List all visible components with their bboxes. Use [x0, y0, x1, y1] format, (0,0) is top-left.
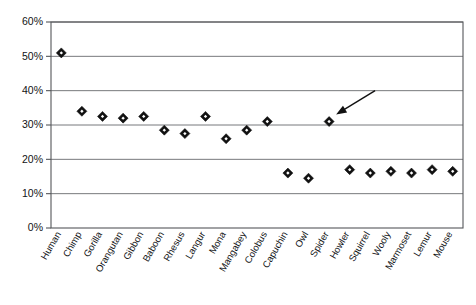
y-axis-label-20: 20%	[22, 153, 43, 165]
y-axis-label-60: 60%	[22, 15, 43, 27]
y-axis-label-0: 0%	[28, 221, 43, 233]
y-axis-label-10: 10%	[22, 187, 43, 199]
y-axis-label-50: 50%	[22, 50, 43, 62]
scatter-chart: 0%10%20%30%40%50%60% HumanChimpGorillaOr…	[0, 0, 476, 305]
chart-canvas: 0%10%20%30%40%50%60% HumanChimpGorillaOr…	[0, 0, 476, 305]
y-axis-label-30: 30%	[22, 118, 43, 130]
y-axis-label-40: 40%	[22, 84, 43, 96]
chart-background	[0, 0, 476, 305]
